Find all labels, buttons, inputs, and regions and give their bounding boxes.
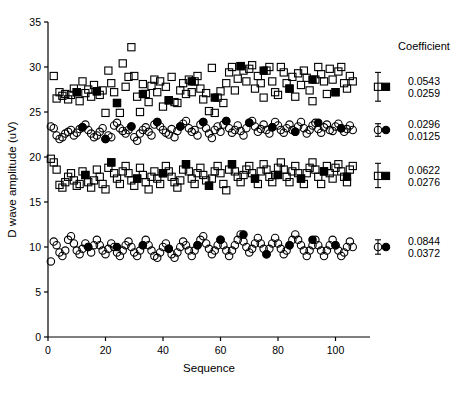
data-point (139, 81, 146, 88)
data-point (260, 161, 267, 168)
data-point (309, 98, 316, 105)
data-point (50, 72, 57, 79)
data-point-filled (237, 63, 244, 70)
summary-marker-filled (382, 172, 389, 179)
summary-marker-filled (382, 243, 389, 250)
data-point (341, 80, 348, 87)
data-point-filled (205, 182, 212, 189)
coefficient-value: 0.0543 (408, 75, 440, 87)
data-point-filled (320, 168, 327, 175)
data-point (226, 69, 233, 76)
data-point (116, 180, 123, 187)
y-tick-label: 25 (29, 106, 41, 118)
data-point (145, 99, 152, 106)
y-tick-label: 0 (35, 331, 41, 343)
data-point (93, 166, 100, 173)
y-tick-label: 20 (29, 151, 41, 163)
data-point-filled (177, 123, 184, 130)
data-point (145, 186, 152, 193)
data-point (234, 75, 241, 82)
y-tick-label: 35 (29, 16, 41, 28)
data-point (53, 166, 60, 173)
y-axis-title: D wave amplitude (uV) (6, 121, 18, 237)
data-point-filled (332, 89, 339, 96)
data-point (136, 108, 143, 115)
data-point (113, 175, 120, 182)
y-tick-label: 5 (35, 286, 41, 298)
data-point (286, 179, 293, 186)
data-point-filled (309, 76, 316, 83)
figure-scatter-plot: 05101520253035020406080100SequenceD wave… (0, 0, 458, 393)
data-point (329, 175, 336, 182)
x-tick-label: 0 (45, 344, 51, 356)
data-point-filled (297, 175, 304, 182)
x-tick-label: 20 (100, 344, 112, 356)
data-point (70, 240, 77, 247)
data-point-filled (343, 173, 350, 180)
data-point (214, 162, 221, 169)
data-point (326, 65, 333, 72)
data-point (122, 83, 129, 90)
data-point-filled (332, 242, 339, 249)
data-point-filled (159, 170, 166, 177)
data-point-filled (286, 85, 293, 92)
data-point-filled (73, 89, 80, 96)
data-point-filled (182, 161, 189, 168)
data-point (315, 63, 322, 70)
data-point (292, 162, 299, 169)
data-point (349, 78, 356, 85)
summary-marker-filled (382, 83, 389, 90)
data-point-filled (315, 119, 322, 126)
data-point-filled (85, 243, 92, 250)
x-tick-label: 40 (157, 344, 169, 356)
plot-canvas: 05101520253035020406080100SequenceD wave… (0, 0, 458, 393)
data-point (343, 85, 350, 92)
data-point-filled (338, 125, 345, 132)
data-point-filled (139, 242, 146, 249)
data-point (292, 93, 299, 100)
data-point (102, 186, 109, 193)
data-point (105, 67, 112, 74)
data-point-filled (251, 175, 258, 182)
data-point (231, 87, 238, 94)
y-tick-label: 10 (29, 241, 41, 253)
coefficient-header: Coefficient (398, 40, 450, 52)
data-point (119, 60, 126, 67)
data-point (329, 76, 336, 83)
data-point-filled (79, 124, 86, 131)
data-point (99, 180, 106, 187)
data-point-filled (102, 135, 109, 142)
x-axis-title: Sequence (183, 362, 235, 374)
data-point (297, 81, 304, 88)
data-point (73, 182, 80, 189)
data-point (128, 44, 135, 51)
data-point-filled (246, 119, 253, 126)
data-point (157, 180, 164, 187)
data-point (168, 173, 175, 180)
data-point (228, 63, 235, 70)
coefficient-value: 0.0622 (408, 164, 440, 176)
coefficient-value: 0.0844 (408, 235, 440, 247)
data-point (174, 184, 181, 191)
data-point-filled (113, 99, 120, 106)
data-point-filled (292, 128, 299, 135)
data-point (59, 184, 66, 191)
data-point (338, 63, 345, 70)
data-point-filled (165, 245, 172, 252)
data-point-filled (128, 123, 135, 130)
x-tick-label: 100 (327, 344, 345, 356)
data-point-filled (134, 175, 141, 182)
x-tick-label: 60 (215, 344, 227, 356)
data-point-filled (228, 161, 235, 168)
data-point (280, 69, 287, 76)
data-point-filled (188, 78, 195, 85)
data-point (116, 109, 123, 116)
data-point (151, 168, 158, 175)
x-tick-label: 80 (272, 344, 284, 356)
data-point (131, 182, 138, 189)
data-point (108, 80, 115, 87)
data-point (269, 78, 276, 85)
data-point (191, 180, 198, 187)
data-point (320, 78, 327, 85)
data-point-filled (82, 171, 89, 178)
